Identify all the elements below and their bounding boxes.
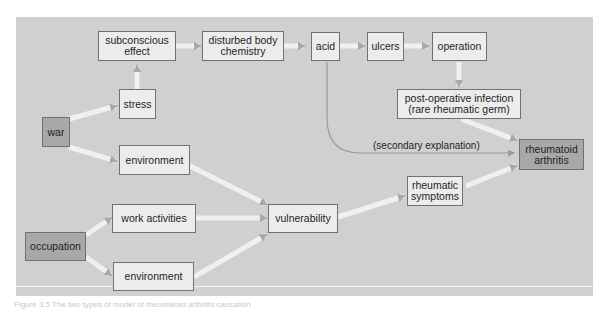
node-environment-occupation: environment — [113, 262, 194, 291]
figure-caption: Figure 3.5 The two types of model of rhe… — [14, 300, 251, 309]
node-war: war — [42, 117, 70, 147]
node-rheumatoid-arthritis: rheumatoid arthritis — [519, 139, 584, 170]
node-occupation: occupation — [25, 232, 86, 261]
arrow-vulnerability-to-symptoms — [338, 196, 404, 217]
node-stress: stress — [119, 89, 156, 119]
arrow-war-to-environment — [69, 147, 116, 161]
arrow-symptoms-to-ra — [466, 166, 516, 186]
arrow-war-to-stress — [69, 106, 116, 119]
arrow-occupation-to-environment2 — [86, 257, 111, 275]
node-disturbed-body-chemistry: disturbed body chemistry — [202, 31, 284, 61]
arrow-environment2-to-vulnerability — [194, 235, 266, 277]
node-environment-war: environment — [119, 145, 190, 175]
label-secondary-explanation: (secondary explanation) — [373, 140, 480, 151]
node-subconscious-effect: subconscious effect — [98, 31, 176, 61]
node-ulcers: ulcers — [367, 32, 404, 61]
node-post-operative-infection: post-operative infection (rare rheumatic… — [397, 89, 521, 119]
arrow-environment-to-vulnerability — [190, 166, 266, 204]
node-operation: operation — [432, 32, 487, 61]
node-vulnerability: vulnerability — [268, 204, 338, 233]
arrow-infection-to-ra — [461, 119, 516, 140]
node-work-activities: work activities — [112, 204, 196, 233]
arrow-occupation-to-work — [86, 218, 111, 235]
node-acid: acid — [311, 32, 340, 61]
node-rheumatic-symptoms: rheumatic symptoms — [407, 176, 463, 206]
